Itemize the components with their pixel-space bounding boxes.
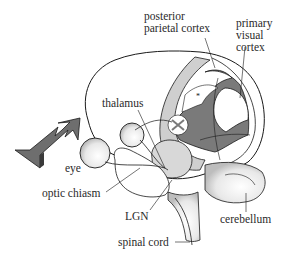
label-spinal-cord: spinal cord <box>118 236 169 248</box>
direction-arrow <box>15 118 80 168</box>
label-thalamus: thalamus <box>102 97 144 109</box>
label-eye: eye <box>65 162 81 174</box>
cerebellum-shape <box>205 162 265 202</box>
brain-diagram: * posterior parietal cortex pr <box>0 0 291 257</box>
eye-outer <box>80 138 110 168</box>
label-lgn: LGN <box>125 210 149 222</box>
label-optic-chiasm: optic chiasm <box>42 187 100 199</box>
label-cerebellum: cerebellum <box>220 213 271 225</box>
label-posterior-parietal-cortex: posterior parietal cortex <box>144 10 210 34</box>
label-primary-visual-cortex: primary visual cortex <box>236 17 272 53</box>
asterisk-marker: * <box>196 92 200 101</box>
brainstem <box>168 192 200 242</box>
